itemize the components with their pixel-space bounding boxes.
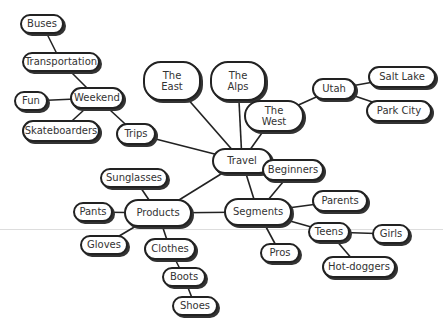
node-fun[interactable]: Fun (14, 91, 48, 111)
node-boots[interactable]: Boots (162, 267, 206, 287)
node-transport[interactable]: Transportation (22, 52, 100, 72)
node-girls[interactable]: Girls (372, 224, 410, 244)
node-teens[interactable]: Teens (308, 222, 350, 242)
node-gloves[interactable]: Gloves (80, 235, 128, 255)
node-products[interactable]: Products (124, 199, 192, 227)
node-parkcity[interactable]: Park City (366, 100, 432, 122)
node-pants[interactable]: Pants (73, 202, 113, 222)
node-skate[interactable]: Skateboarders (22, 120, 100, 142)
node-alps[interactable]: The Alps (210, 61, 266, 101)
node-buses[interactable]: Buses (20, 14, 64, 34)
node-beginners[interactable]: Beginners (262, 159, 324, 181)
node-parents[interactable]: Parents (312, 190, 368, 212)
node-saltlake[interactable]: Salt Lake (368, 66, 436, 88)
node-pros[interactable]: Pros (260, 243, 300, 263)
node-clothes[interactable]: Clothes (144, 238, 196, 260)
node-shoes[interactable]: Shoes (172, 296, 218, 316)
node-trips[interactable]: Trips (116, 123, 156, 145)
node-sunglasses[interactable]: Sunglasses (100, 168, 168, 188)
node-weekend[interactable]: Weekend (70, 87, 124, 109)
node-hotdoggers[interactable]: Hot-doggers (322, 256, 396, 278)
node-utah[interactable]: Utah (312, 78, 356, 100)
node-west[interactable]: The West (244, 100, 304, 132)
node-segments[interactable]: Segments (224, 198, 292, 226)
node-east[interactable]: The East (143, 61, 201, 101)
